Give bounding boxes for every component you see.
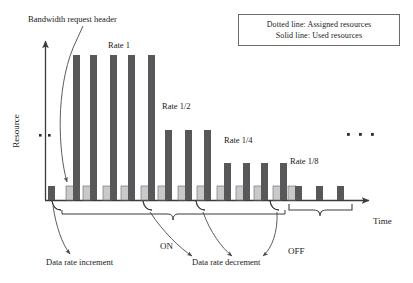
x-axis-label: Time	[373, 216, 392, 226]
bandwidth-rate-adaptation-diagram: Dotted line: Assigned resources Solid li…	[0, 0, 413, 283]
legend-box: Dotted line: Assigned resources Solid li…	[238, 14, 400, 46]
rate-label-1-2: Rate 1/2	[162, 101, 191, 111]
rate-label-1-8: Rate 1/8	[290, 156, 319, 166]
transition-hooks	[52, 201, 279, 210]
annotation-bandwidth-request-header: Bandwidth request header	[28, 14, 117, 24]
on-period-label: ON	[160, 241, 173, 251]
legend-solid-line: Solid line: Used resources	[276, 30, 362, 41]
off-period-label: OFF	[288, 246, 305, 256]
rate-label-1: Rate 1	[108, 40, 130, 50]
off-period-bracket	[289, 204, 352, 216]
y-axis-label: Resource	[11, 101, 21, 161]
on-period-bracket	[62, 210, 285, 220]
rate-label-1-4: Rate 1/4	[224, 135, 253, 145]
annotation-data-rate-decrement: Data rate decrement	[192, 257, 260, 267]
ellipsis-dots-right	[347, 133, 374, 136]
legend-dotted-line: Dotted line: Assigned resources	[267, 19, 372, 30]
ellipsis-dots-left	[39, 134, 51, 137]
annotation-data-rate-increment: Data rate increment	[46, 257, 113, 267]
used-resource-bars	[48, 55, 344, 200]
